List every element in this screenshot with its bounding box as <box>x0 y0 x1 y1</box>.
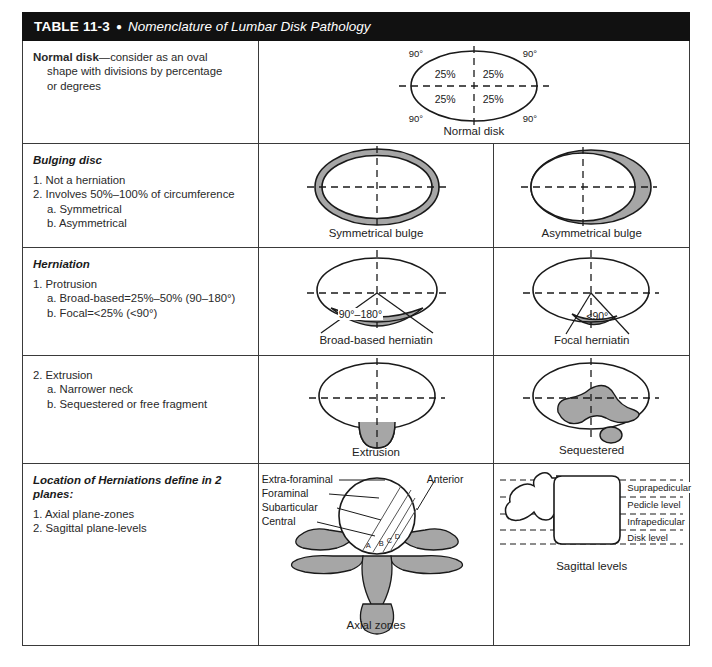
axial-marker-a: A <box>366 541 371 550</box>
axial-zones-figure: Extra-foraminal Foraminal Subarticular C… <box>259 464 495 645</box>
focal-angle-label: <90° <box>586 310 608 322</box>
herniation-item-1: 1. Protrusion <box>33 277 250 291</box>
table-number: TABLE 11-3 <box>34 19 110 34</box>
broad-based-angle-label: 90°–180° <box>338 308 383 320</box>
normal-disk-line-1: —consider as an oval <box>99 51 208 63</box>
symmetrical-bulge-caption: Symmetrical bulge <box>259 227 494 239</box>
focal-figure: <90° Focal herniatin <box>494 248 689 355</box>
sagittal-label-disk: Disk level <box>625 532 670 543</box>
table-row: Normal disk—consider as an oval shape wi… <box>23 41 689 144</box>
table-body: Normal disk—consider as an oval shape wi… <box>22 41 690 646</box>
sagittal-levels-caption: Sagittal levels <box>494 560 689 572</box>
bulging-disc-item-1: 1. Not a herniation <box>33 173 250 187</box>
table-title: Nomenclature of Lumbar Disk Pathology <box>128 19 370 34</box>
axial-label-foraminal: Foraminal <box>262 487 309 499</box>
normal-disk-figure: 90° 90° 90° 90° 25% 25% 25% 25% Normal d… <box>259 41 689 143</box>
axial-label-anterior: Anterior <box>427 473 464 485</box>
extrusion-item-2a: a. Narrower neck <box>33 382 250 396</box>
broad-based-figure: 90°–180° Broad-based herniatin <box>259 248 495 355</box>
quadrant-label-bottom-left: 25% <box>435 93 456 105</box>
row-normal-disk-text: Normal disk—consider as an oval shape wi… <box>23 41 259 143</box>
herniation-item-1b: b. Focal=<25% (<90°) <box>33 306 250 320</box>
row-location-text: Location of Herniations define in 2 plan… <box>23 464 259 645</box>
axial-label-extra-foraminal: Extra-foraminal <box>262 473 333 485</box>
extrusion-caption: Extrusion <box>259 446 494 458</box>
sagittal-label-infrapedicular: Infrapedicular <box>625 516 687 527</box>
axial-label-central: Central <box>262 515 296 527</box>
normal-disk-caption: Normal disk <box>259 125 689 137</box>
asymmetrical-bulge-figure: Asymmetrical bulge <box>494 144 689 247</box>
table-row: Location of Herniations define in 2 plan… <box>23 464 689 645</box>
location-item-2: 2. Sagittal plane-levels <box>33 521 250 535</box>
bullet-icon: ● <box>116 22 122 32</box>
bulging-disc-item-2b: b. Asymmetrical <box>33 216 250 230</box>
symmetrical-bulge-figure: Symmetrical bulge <box>259 144 495 247</box>
row-extrusion-text: 2. Extrusion a. Narrower neck b. Sequest… <box>23 356 259 463</box>
bulging-disc-heading: Bulging disc <box>33 153 250 167</box>
row-bulging-disc-text: Bulging disc 1. Not a herniation 2. Invo… <box>23 144 259 247</box>
bulging-disc-item-2a: a. Symmetrical <box>33 202 250 216</box>
sagittal-levels-figure: Suprapedicular Pedicle level Infrapedicu… <box>494 464 689 645</box>
normal-disk-heading-line: Normal disk—consider as an oval <box>33 50 250 64</box>
herniation-heading: Herniation <box>33 257 250 271</box>
axial-marker-c: C <box>387 536 392 545</box>
table-header: TABLE 11-3 ● Nomenclature of Lumbar Disk… <box>22 12 690 41</box>
sagittal-label-pedicle: Pedicle level <box>625 499 682 510</box>
focal-caption: Focal herniatin <box>494 334 689 346</box>
extrusion-item-2b: b. Sequestered or free fragment <box>33 397 250 411</box>
angle-label-bottom-right: 90° <box>523 113 537 124</box>
quadrant-label-top-right: 25% <box>483 68 504 80</box>
table-row: Herniation 1. Protrusion a. Broad-based=… <box>23 248 689 356</box>
extrusion-figure: Extrusion <box>259 356 495 463</box>
sagittal-label-suprapedicular: Suprapedicular <box>625 482 693 493</box>
quadrant-label-bottom-right: 25% <box>483 93 504 105</box>
table-row: Bulging disc 1. Not a herniation 2. Invo… <box>23 144 689 248</box>
sequestered-figure: Sequestered <box>494 356 689 463</box>
axial-label-subarticular: Subarticular <box>262 501 318 513</box>
bulging-disc-item-2: 2. Involves 50%–100% of circumference <box>33 187 250 201</box>
table-row: 2. Extrusion a. Narrower neck b. Sequest… <box>23 356 689 464</box>
location-item-1: 1. Axial plane-zones <box>33 507 250 521</box>
axial-marker-d: D <box>395 532 400 541</box>
normal-disk-line-3: or degrees <box>33 79 250 93</box>
broad-based-caption: Broad-based herniatin <box>259 334 494 346</box>
asymmetrical-bulge-caption: Asymmetrical bulge <box>494 227 689 239</box>
location-heading: Location of Herniations define in 2 plan… <box>33 473 250 501</box>
axial-marker-b: B <box>379 539 384 548</box>
extrusion-item-2: 2. Extrusion <box>33 368 250 382</box>
normal-disk-heading: Normal disk <box>33 51 99 63</box>
quadrant-label-top-left: 25% <box>435 68 456 80</box>
table-11-3: TABLE 11-3 ● Nomenclature of Lumbar Disk… <box>22 12 690 646</box>
normal-disk-line-2: shape with divisions by percentage <box>33 64 250 78</box>
angle-label-top-left: 90° <box>409 48 423 59</box>
axial-zones-caption: Axial zones <box>259 619 494 631</box>
angle-label-bottom-left: 90° <box>409 113 423 124</box>
sequestered-caption: Sequestered <box>494 444 689 456</box>
herniation-item-1a: a. Broad-based=25%–50% (90–180°) <box>33 291 250 305</box>
row-herniation-text: Herniation 1. Protrusion a. Broad-based=… <box>23 248 259 355</box>
angle-label-top-right: 90° <box>523 48 537 59</box>
